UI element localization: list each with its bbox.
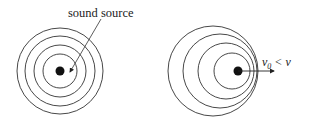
velocity-comparison: < v <box>271 55 291 69</box>
stationary-source-diagram: sound source <box>17 6 134 114</box>
sound-source-label: sound source <box>68 6 134 20</box>
doppler-diagram: sound source v0 < v <box>0 0 314 130</box>
sound-source-dot <box>56 67 65 76</box>
moving-source-diagram: v0 < v <box>168 26 291 116</box>
velocity-label: v0 < v <box>262 55 291 71</box>
